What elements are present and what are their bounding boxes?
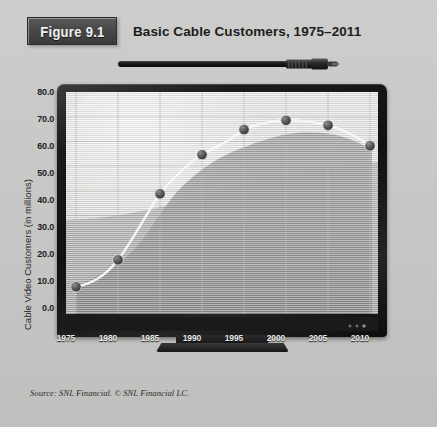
series-markers — [71, 115, 375, 292]
crt-monitor-icon — [57, 84, 387, 352]
monitor-stand-base — [156, 343, 289, 352]
y-axis-ticks: 80.0 70.0 60.0 50.0 40.0 30.0 20.0 10.0 … — [14, 84, 54, 334]
x-tick-2010: 2010 — [343, 333, 377, 343]
figure-title: Basic Cable Customers, 1975–2011 — [133, 24, 361, 39]
figure-number-label: Figure 9.1 — [40, 23, 104, 40]
y-tick-60: 60.0 — [20, 141, 54, 151]
x-tick-1990: 1990 — [175, 333, 209, 343]
x-tick-1985: 1985 — [133, 333, 167, 343]
figure-header: Figure 9.1 Basic Cable Customers, 1975–2… — [27, 17, 417, 45]
chart-screen — [66, 92, 378, 314]
monitor-control-strip — [66, 317, 378, 331]
data-point-1995 — [239, 124, 249, 134]
x-tick-2000: 2000 — [259, 333, 293, 343]
y-tick-50: 50.0 — [20, 168, 54, 178]
figure-number-badge: Figure 9.1 — [27, 17, 117, 45]
data-point-1980 — [113, 255, 123, 265]
data-point-2000 — [281, 115, 291, 125]
chart-series-layer — [66, 92, 378, 314]
source-note: Source: SNL Financial. © SNL Financial L… — [30, 388, 189, 398]
y-tick-80: 80.0 — [20, 87, 54, 97]
y-tick-70: 70.0 — [20, 114, 54, 124]
x-tick-2005: 2005 — [301, 333, 335, 343]
y-axis-title: Cable Video Customers (in millions) — [22, 179, 33, 330]
x-tick-1995: 1995 — [217, 333, 251, 343]
data-point-2010 — [365, 141, 375, 151]
x-tick-1980: 1980 — [91, 333, 125, 343]
data-point-1975 — [71, 282, 81, 292]
data-point-1985 — [155, 189, 165, 199]
data-point-1990 — [197, 149, 207, 159]
figure-page: Figure 9.1 Basic Cable Customers, 1975–2… — [0, 0, 437, 427]
coaxial-cable-icon — [118, 56, 340, 72]
data-point-2005 — [323, 120, 333, 130]
x-tick-1975: 1975 — [49, 333, 83, 343]
